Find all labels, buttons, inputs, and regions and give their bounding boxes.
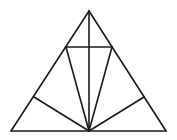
side-right-segment [89, 11, 166, 131]
triangle-diagram [0, 0, 177, 140]
side-left-segment [11, 11, 89, 131]
